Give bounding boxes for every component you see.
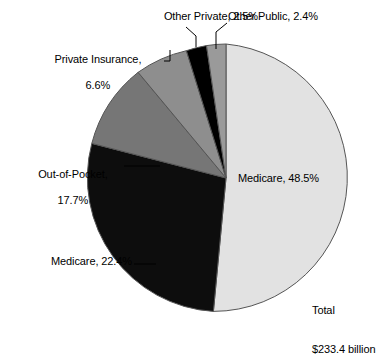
slice-label-out-of-pocket-line1: Out-of-Pocket,	[38, 168, 108, 180]
slice-label-medicare-48: Medicare, 48.5%	[238, 172, 358, 185]
slice-label-out-of-pocket-line2: 17.7%	[58, 194, 89, 206]
slice-label-private-insurance: Private Insurance, 6.6%	[18, 40, 166, 105]
slice-label-other-public: Other Public, 2.4%	[228, 10, 378, 23]
chart-total-value: $233.4 billion	[312, 343, 382, 356]
slice-label-out-of-pocket: Out-of-Pocket, 17.7%	[4, 155, 130, 220]
chart-total-label: Total	[312, 304, 382, 317]
slice-label-medicare-22: Medicare, 22.4%	[4, 255, 132, 268]
slice-label-private-insurance-line1: Private Insurance,	[54, 53, 141, 65]
chart-total-annotation: Total $233.4 billion	[312, 278, 382, 358]
leader-line-other-private	[186, 27, 196, 47]
slice-label-private-insurance-line2: 6.6%	[86, 79, 111, 91]
